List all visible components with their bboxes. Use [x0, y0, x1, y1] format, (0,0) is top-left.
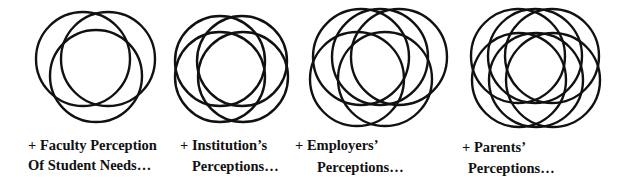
parents-caption-line2: Perceptions…	[468, 161, 555, 176]
institution-caption-line2: Perceptions…	[192, 159, 279, 174]
parents-caption-line1: + Parents’	[462, 140, 526, 155]
institution-circle-4	[198, 32, 288, 122]
institution-caption-line1: + Institution’s	[180, 138, 267, 153]
faculty-circle-group	[36, 12, 155, 122]
parents-circle-group	[471, 9, 600, 127]
employers-circle-group	[310, 9, 447, 126]
employers-caption-line2: Perceptions…	[317, 160, 404, 175]
faculty-caption-line2: Of Student Needs…	[28, 158, 151, 173]
institution-circle-3	[175, 32, 265, 122]
parents-circle-5	[489, 33, 583, 127]
employers-circle-2	[332, 9, 428, 105]
institution-circle-1	[175, 16, 265, 106]
faculty-circle-2	[61, 12, 155, 106]
employers-circle-5	[338, 32, 432, 126]
institution-circle-2	[197, 16, 287, 106]
employers-caption-line1: + Employers’	[295, 138, 379, 153]
faculty-caption-line1: + Faculty Perception	[28, 138, 157, 153]
parents-circle-2	[488, 9, 582, 103]
institution-circle-group	[175, 16, 288, 122]
employers-circle-1	[313, 9, 409, 105]
faculty-circle-1	[36, 12, 130, 106]
